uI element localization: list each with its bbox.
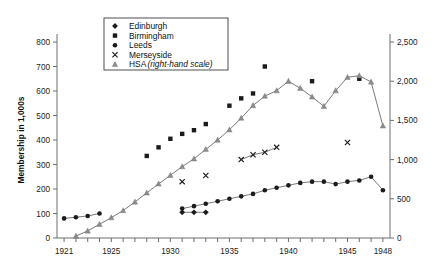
data-point-circle [381,188,386,193]
chart-container: 010020030040050060070080005001,0001,5002… [0,0,444,274]
x-axis-tick-label: 1930 [161,247,180,256]
series-leeds [62,174,385,220]
y-axis-tick-label: 600 [36,87,50,96]
data-point-circle [310,179,315,184]
data-point-circle [180,206,185,211]
data-point-circle [357,178,362,183]
y-axis-title: Membership in 1,000s [16,96,26,183]
data-point-triangle [132,199,137,204]
x-axis-tick-label: 1948 [374,247,393,256]
y2-axis-tick-label: 500 [397,195,411,204]
data-point-circle [74,215,79,220]
legend-item-label: HSA [129,59,147,69]
data-point-circle [192,204,197,209]
data-point-circle [227,197,232,202]
data-point-square [156,145,160,149]
data-point-triangle [203,147,208,152]
y-axis-tick-label: 200 [36,185,50,194]
data-point-x [180,179,185,184]
y2-axis-tick-label: 1,000 [397,156,418,165]
data-point-circle [251,192,256,197]
data-point-triangle [144,190,149,195]
data-point-circle [333,182,338,187]
data-point-diamond [191,209,197,215]
y-axis-tick-label: 500 [36,112,50,121]
data-point-circle [322,179,327,184]
x-axis-tick-label: 1925 [102,247,121,256]
data-point-circle [203,201,208,206]
x-axis-tick-label: 1921 [55,247,74,256]
y2-axis-tick-label: 2,000 [397,77,418,86]
y-axis-tick-label: 400 [36,136,50,145]
legend-item-label: Birmingham [129,31,174,41]
series-merseyside [180,140,351,184]
data-point-circle [274,185,279,190]
data-point-x [239,157,244,162]
legend-item-label: Leeds [129,40,152,50]
data-point-circle [263,188,268,193]
series-line [64,214,99,219]
legend-item-label: Edinburgh [129,21,168,31]
data-point-circle [97,211,102,216]
series-line [182,177,383,209]
data-point-triangle [368,79,373,84]
data-point-triangle [380,123,385,128]
chart-legend: EdinburghBirminghamLeedsMerseysideHSA(ri… [104,18,228,70]
data-point-circle [113,43,118,48]
data-point-triangle [120,208,125,213]
data-point-triangle [309,94,314,99]
data-point-square [168,137,172,141]
data-point-triangle [250,103,255,108]
y-axis-tick-label: 300 [36,161,50,170]
legend-item-label: Merseyside [129,50,172,60]
data-point-circle [369,174,374,179]
y-axis-tick-label: 800 [36,38,50,47]
series-hsa [73,73,385,238]
data-point-triangle [274,88,279,93]
data-point-square [310,79,314,83]
data-point-square [251,91,255,95]
data-point-circle [215,199,220,204]
series-line [241,147,276,159]
data-point-triangle [168,172,173,177]
data-point-circle [298,181,303,186]
y2-axis-tick-label: 0 [397,234,402,243]
data-point-x [203,173,208,178]
data-point-square [113,33,117,37]
membership-line-chart: 010020030040050060070080005001,0001,5002… [0,0,444,274]
data-point-triangle [262,93,267,98]
data-point-triangle [286,78,291,83]
data-point-circle [345,179,350,184]
data-point-triangle [109,215,114,220]
data-point-square [227,104,231,108]
series-birmingham [145,64,362,158]
data-point-triangle [156,181,161,186]
data-point-circle [286,183,291,188]
data-point-square [192,128,196,132]
data-point-triangle [357,73,362,78]
data-point-circle [62,216,67,221]
data-point-square [239,96,243,100]
y-axis-tick-label: 0 [45,234,50,243]
data-point-circle [85,214,90,219]
x-axis-tick-label: 1935 [220,247,239,256]
data-point-square [145,154,149,158]
y-axis-tick-label: 700 [36,63,50,72]
data-point-x [345,140,350,145]
y2-axis-tick-label: 2,500 [397,38,418,47]
legend-item-note: (right-hand scale) [147,59,212,69]
data-point-square [180,132,184,136]
data-point-circle [239,194,244,199]
data-point-triangle [179,164,184,169]
y-axis-tick-label: 100 [36,210,50,219]
data-point-diamond [203,209,209,215]
data-point-triangle [97,221,102,226]
y2-axis-tick-label: 1,500 [397,116,418,125]
data-point-triangle [298,85,303,90]
x-axis-tick-label: 1945 [338,247,357,256]
data-point-square [263,64,267,68]
data-point-x [274,145,279,150]
x-axis-tick-label: 1940 [279,247,298,256]
data-point-triangle [85,228,90,233]
data-point-triangle [191,156,196,161]
